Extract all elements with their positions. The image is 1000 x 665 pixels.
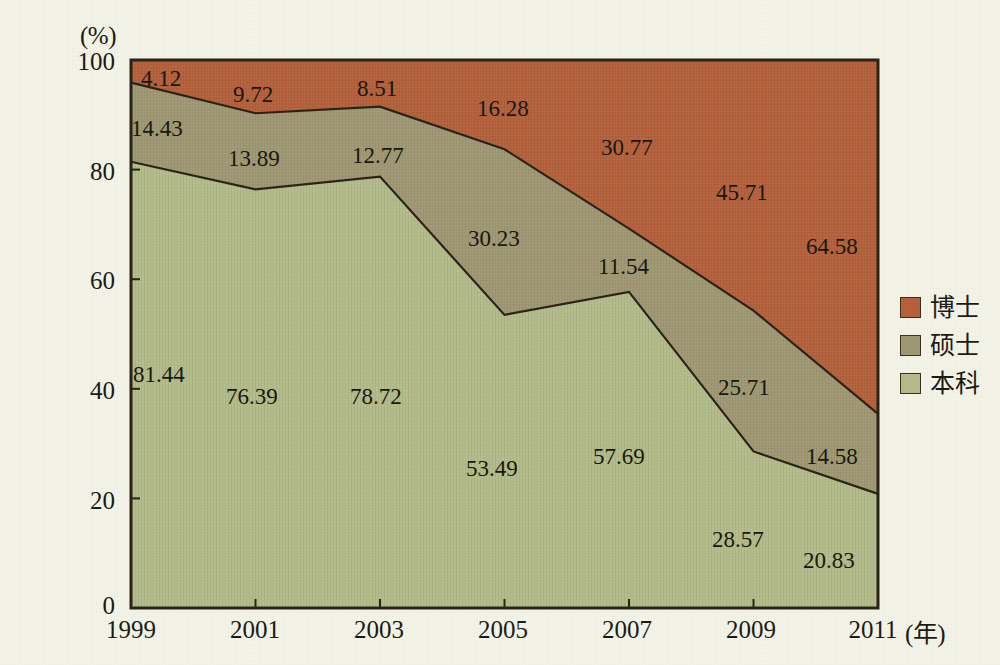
value-label-doctorate-1999: 4.12 <box>141 66 181 92</box>
y-tick-label-100: 100 <box>55 48 115 76</box>
value-label-master-2011: 14.58 <box>806 444 858 470</box>
y-tick-label-40: 40 <box>55 377 115 405</box>
legend-item-doctorate[interactable]: 博士 <box>900 288 996 326</box>
x-tick-label-1999: 1999 <box>86 616 176 644</box>
value-label-bachelor-2005: 53.49 <box>466 456 518 482</box>
legend-item-bachelor[interactable]: 本科 <box>900 364 996 402</box>
y-axis-unit-label: (%) <box>80 22 116 50</box>
y-tick-label-20: 20 <box>55 487 115 515</box>
value-label-master-2009: 25.71 <box>718 375 770 401</box>
y-tick-label-60: 60 <box>55 267 115 295</box>
x-tick-label-2011: 2011 <box>828 616 918 644</box>
x-tick-label-2003: 2003 <box>334 616 424 644</box>
value-label-bachelor-2001: 76.39 <box>226 384 278 410</box>
value-label-doctorate-2007: 30.77 <box>601 135 653 161</box>
legend-swatch-master-icon <box>900 335 921 356</box>
value-label-master-1999: 14.43 <box>131 116 183 142</box>
value-label-bachelor-2007: 57.69 <box>593 444 645 470</box>
x-tick-label-2001: 2001 <box>210 616 300 644</box>
x-tick-label-2009: 2009 <box>706 616 796 644</box>
value-label-bachelor-2003: 78.72 <box>350 384 402 410</box>
value-label-master-2003: 12.77 <box>352 143 404 169</box>
value-label-master-2001: 13.89 <box>228 146 280 172</box>
legend-label-master: 硕士 <box>930 333 980 358</box>
legend-item-master[interactable]: 硕士 <box>900 326 996 364</box>
value-label-doctorate-2005: 16.28 <box>477 96 529 122</box>
value-label-doctorate-2001: 9.72 <box>233 82 273 108</box>
value-label-master-2005: 30.23 <box>468 226 520 252</box>
value-label-doctorate-2009: 45.71 <box>716 180 768 206</box>
legend-label-doctorate: 博士 <box>930 295 980 320</box>
legend-swatch-bachelor-icon <box>900 373 921 394</box>
value-label-master-2007: 11.54 <box>598 254 649 280</box>
value-label-doctorate-2003: 8.51 <box>357 76 397 102</box>
value-label-bachelor-1999: 81.44 <box>133 362 185 388</box>
x-tick-label-2007: 2007 <box>582 616 672 644</box>
value-label-doctorate-2011: 64.58 <box>806 234 858 260</box>
y-tick-label-80: 80 <box>55 158 115 186</box>
value-label-bachelor-2011: 20.83 <box>803 548 855 574</box>
value-label-bachelor-2009: 28.57 <box>712 527 764 553</box>
chart-legend: 博士 硕士 本科 <box>900 288 996 402</box>
legend-swatch-doctorate-icon <box>900 297 921 318</box>
stacked-area-chart: (%) (年) 100 80 60 40 20 0 1999 2001 2003… <box>0 0 1000 665</box>
legend-label-bachelor: 本科 <box>930 371 980 396</box>
x-tick-label-2005: 2005 <box>458 616 548 644</box>
